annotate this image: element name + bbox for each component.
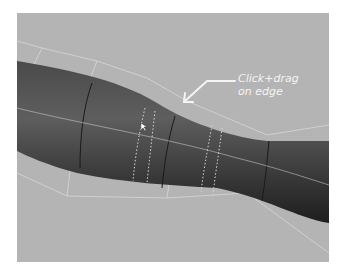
- 3d-viewport[interactable]: Click+drag on edge: [17, 13, 329, 262]
- annotation-line-2: on edge: [238, 85, 299, 98]
- annotation-line-1: Click+drag: [238, 72, 299, 85]
- callout-arrow: [184, 81, 235, 102]
- annotation-label: Click+drag on edge: [238, 72, 299, 98]
- mesh-canvas[interactable]: [17, 13, 329, 262]
